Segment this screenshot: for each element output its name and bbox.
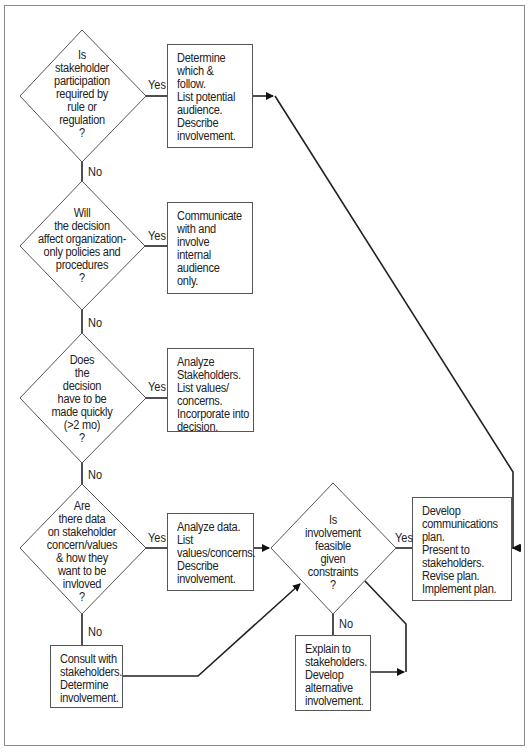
decision-4-text: Are there data on stakeholder concern/va…	[29, 500, 135, 604]
edge-label-no-1: No	[88, 166, 102, 179]
action-box-explain-alternative: Explain to stakeholders. Develop alterna…	[295, 635, 371, 711]
edge-label-no-4: No	[88, 626, 102, 639]
decision-2-text: Will the decision affect organization- o…	[29, 207, 135, 285]
action-box-analyze-stakeholders: Analyze Stakeholders. List values/ conce…	[167, 348, 254, 432]
action-box-communications-plan: Develop communications plan. Present to …	[412, 497, 512, 601]
edge-label-no-2: No	[88, 317, 102, 330]
edge-label-no-3: No	[88, 469, 102, 482]
action-box-analyze-data: Analyze data. List values/concerns. Desc…	[167, 513, 254, 591]
edge-label-yes-5: Yes	[395, 532, 413, 545]
edge-label-no-5: No	[339, 618, 353, 631]
action-box-determine: Determine which & follow. List potential…	[167, 44, 253, 148]
edge-label-yes-4: Yes	[148, 532, 166, 545]
action-box-consult: Consult with stakeholders. Determine inv…	[50, 645, 123, 708]
decision-5-text: Is involvement feasible given constraint…	[280, 514, 386, 592]
edge-label-yes-2: Yes	[148, 230, 166, 243]
action-box-communicate-internal: Communicate with and involve internal au…	[167, 202, 253, 294]
edge-label-yes-1: Yes	[148, 79, 166, 92]
decision-1-text: Is stakeholder participation required by…	[29, 49, 135, 140]
decision-3-text: Does the decision have to be made quickl…	[29, 354, 135, 445]
edge-label-yes-3: Yes	[148, 381, 166, 394]
